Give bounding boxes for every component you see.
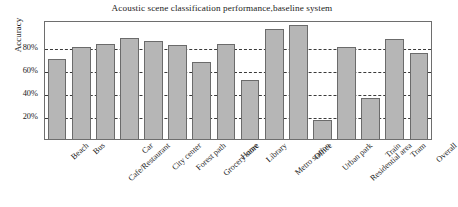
bar bbox=[337, 47, 356, 139]
x-axis-tick-label: Library bbox=[264, 141, 288, 164]
bar bbox=[217, 44, 236, 139]
bar-slot bbox=[190, 22, 214, 139]
bar bbox=[289, 25, 308, 139]
bar-slot bbox=[142, 22, 166, 139]
bar-slot bbox=[238, 22, 262, 139]
bar bbox=[410, 53, 429, 139]
bar bbox=[265, 29, 284, 139]
bars-layer bbox=[45, 22, 431, 139]
y-tick-label: 20% bbox=[4, 112, 38, 121]
bar bbox=[313, 120, 332, 139]
bar-slot bbox=[93, 22, 117, 139]
bar-slot bbox=[335, 22, 359, 139]
bar-slot bbox=[214, 22, 238, 139]
bar bbox=[361, 98, 380, 139]
x-axis-tick-label: Office bbox=[312, 141, 333, 162]
bar bbox=[96, 44, 115, 139]
x-axis-tick-label: Overall bbox=[434, 141, 458, 164]
bar bbox=[192, 62, 211, 139]
bar-slot bbox=[69, 22, 93, 139]
bar-slot bbox=[310, 22, 334, 139]
chart-title: Acoustic scene classification performanc… bbox=[0, 3, 444, 13]
bar-slot bbox=[117, 22, 141, 139]
bar-slot bbox=[45, 22, 69, 139]
x-axis-tick-label: Beach bbox=[69, 141, 90, 161]
bar bbox=[385, 39, 404, 139]
bar-slot bbox=[407, 22, 431, 139]
y-axis-label: Accuracy bbox=[13, 0, 23, 75]
x-axis-labels: BeachBusCafe/RestaurantCarCity centerFor… bbox=[44, 141, 432, 207]
x-axis-tick-label: Urban park bbox=[340, 141, 374, 172]
bar bbox=[72, 47, 91, 139]
bar bbox=[241, 80, 260, 140]
plot-area bbox=[44, 21, 432, 140]
bar bbox=[48, 59, 67, 139]
bar-slot bbox=[286, 22, 310, 139]
y-tick-label: 40% bbox=[4, 89, 38, 98]
bar bbox=[144, 41, 163, 139]
bar bbox=[168, 45, 187, 139]
bar bbox=[120, 38, 139, 139]
x-axis-tick-label: Bus bbox=[92, 141, 107, 156]
bar-slot bbox=[359, 22, 383, 139]
bar-slot bbox=[166, 22, 190, 139]
bar-slot bbox=[262, 22, 286, 139]
bar-slot bbox=[383, 22, 407, 139]
